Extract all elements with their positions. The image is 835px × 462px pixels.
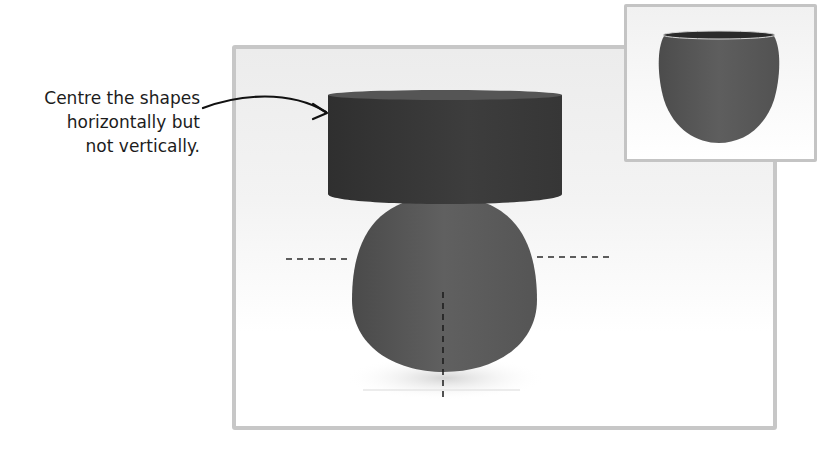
inset-cup-shape xyxy=(659,31,780,143)
arrow-head-icon xyxy=(313,104,327,119)
annotation-arrow xyxy=(203,97,326,113)
illustration-layer xyxy=(0,0,835,462)
egg-shape xyxy=(352,196,537,372)
cylinder-shape xyxy=(328,90,562,204)
